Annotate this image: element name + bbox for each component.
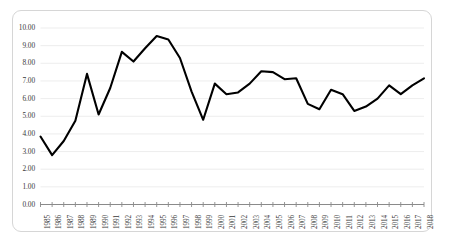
x-axis-tick-label: 1998 [195, 215, 203, 229]
y-axis-tick-label: 1.00 [9, 182, 35, 191]
x-axis-tick-label: 1993 [136, 215, 144, 229]
x-axis-tick-label: 1989 [90, 215, 98, 229]
x-axis-tick-label: 1999 [206, 215, 214, 229]
x-axis-tick-label: 1995 [160, 215, 168, 229]
x-axis-tick-label: 2000 [218, 215, 226, 229]
x-axis-tick-label: 2017 [415, 215, 423, 229]
x-axis-tick-label: 2004 [264, 215, 272, 229]
x-axis-tick-label: 2001 [229, 215, 237, 229]
x-axis-tick-label: 2002 [241, 215, 249, 229]
y-axis-tick-label: 3.00 [9, 147, 35, 156]
x-axis-tick-label: 2005 [276, 215, 284, 229]
y-gridlines [41, 28, 425, 187]
data-series-line [41, 36, 425, 155]
x-axis-tick-label: 2006 [288, 215, 296, 229]
x-axis-tick-label: 1994 [148, 215, 156, 229]
x-axis-tick-label: 2008 [311, 215, 319, 229]
x-axis-tick-label: 1987 [67, 215, 75, 229]
y-axis-tick-label: 2.00 [9, 164, 35, 173]
y-axis-tick-label: 9.00 [9, 41, 35, 50]
x-axis-tick-label: 1997 [183, 215, 191, 229]
line-chart-canvas [0, 0, 450, 251]
x-axis-tick-label: 2013 [369, 215, 377, 229]
y-axis-tick-label: 4.00 [9, 129, 35, 138]
x-axis-tick-label: 2018 [427, 215, 435, 229]
y-axis-tick-label: 5.00 [9, 111, 35, 120]
chart-figure: 10.009.008.007.006.005.004.003.002.001.0… [0, 0, 450, 251]
x-axis-tick-label: 1986 [55, 215, 63, 229]
x-axis-tick-label: 1985 [44, 215, 52, 229]
x-axis-tick-label: 1991 [113, 215, 121, 229]
x-axis-tick-label: 2010 [334, 215, 342, 229]
x-axis-tick-label: 2003 [253, 215, 261, 229]
x-axis-tick-label: 2012 [357, 215, 365, 229]
x-axis-tick-label: 2016 [404, 215, 412, 229]
x-axis-tick-label: 1988 [78, 215, 86, 229]
x-axis-tick-label: 1996 [171, 215, 179, 229]
x-axis-tick-label: 1990 [102, 215, 110, 229]
y-axis-tick-label: 0.00 [9, 200, 35, 209]
y-axis-tick-label: 8.00 [9, 58, 35, 67]
y-axis-tick-label: 6.00 [9, 94, 35, 103]
y-axis-tick-label: 7.00 [9, 76, 35, 85]
x-axis-tick-label: 2015 [392, 215, 400, 229]
y-axis-tick-label: 10.00 [9, 23, 35, 32]
x-axis-tick-label: 2011 [346, 215, 354, 229]
x-axis-tick-label: 2009 [322, 215, 330, 229]
x-axis-tick-label: 2007 [299, 215, 307, 229]
x-axis-tick-label: 1992 [125, 215, 133, 229]
x-axis-tick-label: 2014 [381, 215, 389, 229]
